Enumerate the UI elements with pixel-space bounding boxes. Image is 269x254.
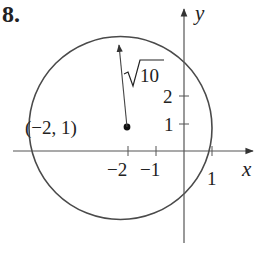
- y-tick-label-1: 1: [164, 114, 174, 135]
- x-axis-label: x: [241, 157, 252, 181]
- x-tick-label-neg1: −1: [140, 159, 160, 180]
- problem-number: 8.: [2, 1, 20, 27]
- radius-radicand: 10: [140, 65, 159, 86]
- y-axis-label: y: [193, 1, 205, 25]
- radius-label: 10: [124, 60, 164, 86]
- x-tick-label-1: 1: [207, 168, 217, 189]
- radius-arrow: [119, 45, 127, 127]
- circle-diagram: 8. y x −2 −1 1 2 1 (−2, 1) 10: [0, 0, 269, 254]
- y-tick-label-2: 2: [163, 86, 173, 107]
- center-label: (−2, 1): [25, 117, 77, 139]
- x-tick-label-neg2: −2: [107, 159, 127, 180]
